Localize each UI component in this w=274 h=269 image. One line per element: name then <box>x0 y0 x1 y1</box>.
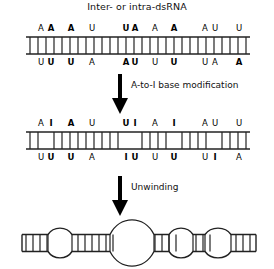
sequence-row-bottom: UUUAAUUUUAA <box>0 56 274 68</box>
base-letter: U <box>36 56 46 68</box>
base-letter: A <box>87 151 97 163</box>
panel-unwound-duplex <box>0 218 274 268</box>
panel-unedited-duplex: AAAUUAAAAUU UUUAAUUUUAA <box>0 22 274 70</box>
base-letter: A <box>66 22 76 34</box>
base-letter: U <box>200 151 210 163</box>
base-letter: A <box>210 56 220 68</box>
base-letter: A <box>234 151 244 163</box>
base-letter: U <box>46 56 56 68</box>
unwound-duplex-graphic <box>0 218 274 268</box>
rail-top <box>22 220 256 235</box>
base-letter: U <box>87 117 97 129</box>
base-letter: I <box>130 117 140 129</box>
arrow-label-a-to-i: A-to-I base modification <box>131 80 238 90</box>
sequence-row-top: AAAUUAAAAUU <box>0 22 274 34</box>
base-letter: I <box>169 117 179 129</box>
base-letter: U <box>150 56 160 68</box>
rail-bottom <box>22 252 256 267</box>
base-letter: U <box>130 56 140 68</box>
base-letter: I <box>46 117 56 129</box>
base-letter: U <box>210 22 220 34</box>
base-letter: A <box>36 22 46 34</box>
duplex-ladder <box>0 130 274 152</box>
base-letter: A <box>36 117 46 129</box>
base-letter: U <box>150 151 160 163</box>
base-letter: U <box>36 151 46 163</box>
base-letter: A <box>234 56 244 68</box>
base-letter: U <box>87 22 97 34</box>
base-letter: A <box>150 117 160 129</box>
base-letter: A <box>130 22 140 34</box>
base-letter: U <box>130 151 140 163</box>
base-letter: U <box>200 56 210 68</box>
duplex-ladder <box>0 35 274 57</box>
figure-title: Inter- or intra-dsRNA <box>0 1 274 12</box>
base-letter: A <box>87 56 97 68</box>
base-letter: A <box>66 117 76 129</box>
base-letter: I <box>210 151 220 163</box>
base-letter: U <box>234 22 244 34</box>
panel-edited-duplex: AIAUUIAIAUU UUUAIUUUUIA <box>0 117 274 165</box>
sequence-row-top: AIAUUIAIAUU <box>0 117 274 129</box>
base-letter: A <box>169 22 179 34</box>
base-letter: U <box>169 56 179 68</box>
base-letter: U <box>66 151 76 163</box>
base-letter: U <box>234 117 244 129</box>
base-letter: A <box>150 22 160 34</box>
sequence-row-bottom: UUUAIUUUUIA <box>0 151 274 163</box>
base-letter: U <box>46 151 56 163</box>
base-letter: A <box>200 22 210 34</box>
base-letter: A <box>46 22 56 34</box>
base-letter: U <box>66 56 76 68</box>
base-letter: U <box>169 151 179 163</box>
rna-editing-diagram: Inter- or intra-dsRNA AAAUUAAAAUU UUUAAU… <box>0 0 274 269</box>
base-letter: U <box>210 117 220 129</box>
base-letter: A <box>200 117 210 129</box>
arrow-label-unwinding: Unwinding <box>131 182 179 192</box>
